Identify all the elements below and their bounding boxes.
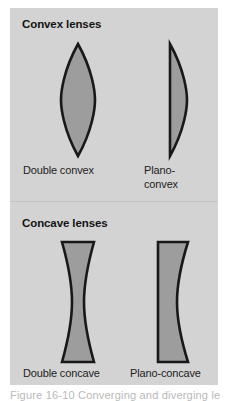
double-concave-lens-caption: Double concave [23,366,133,380]
convex-section-heading: Convex lenses [22,18,101,30]
plano-concave-lens-caption: Plano-concave [130,366,222,380]
concave-section-heading: Concave lenses [22,217,108,229]
double-concave-lens-diagram [40,240,116,364]
double-concave-lens-shape [40,240,116,364]
double-convex-lens-diagram [40,41,116,159]
lens-figure-panel: Convex lenses Double convex Plano-convex… [10,8,218,385]
plano-convex-lens-caption: Plano-convex [144,163,204,191]
plano-concave-lens-shape [144,240,214,364]
plano-convex-lens-diagram [144,41,206,159]
plano-convex-lens-shape [144,41,206,159]
figure-caption: Figure 16-10 Converging and diverging le… [10,389,220,401]
double-convex-lens-caption: Double convex [23,163,127,177]
double-convex-lens-shape [40,41,116,159]
plano-concave-lens-diagram [144,240,214,364]
section-divider [10,201,218,202]
